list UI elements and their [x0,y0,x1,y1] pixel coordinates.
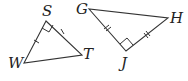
right-angle-marker-j [120,38,133,45]
triangle-gjh [89,9,168,51]
vertex-label-s: S [42,2,52,20]
triangle-gjh-outline [89,9,168,51]
tick-mark-st [61,29,64,34]
vertex-label-w: W [8,54,25,72]
triangle-swt-outline [24,21,82,63]
diagram-canvas: S W T G H J [0,0,188,81]
triangle-swt [24,21,82,63]
vertex-label-t: T [83,45,94,63]
vertex-label-g: G [76,0,88,18]
vertex-label-h: H [169,9,184,27]
congruent-triangles-diagram: S W T G H J [0,0,188,81]
vertex-label-j: J [118,54,128,72]
